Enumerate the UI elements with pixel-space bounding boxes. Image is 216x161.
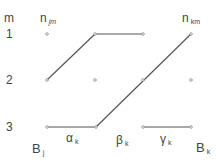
alpha-sym: α	[66, 131, 73, 145]
gamma-sub: k	[168, 139, 172, 146]
bk-b: B	[196, 140, 205, 155]
beta-sym: β	[116, 133, 123, 147]
label-alpha: αk	[66, 132, 78, 145]
label-gamma: γk	[160, 133, 172, 146]
label-bk: Bk	[196, 141, 210, 155]
gamma-sym: γ	[160, 132, 166, 146]
beta-sub: k	[125, 140, 129, 147]
label-beta: βk	[116, 134, 128, 147]
path-diagram	[0, 0, 216, 161]
bk-sub: k	[207, 148, 211, 155]
bj-b: B	[32, 141, 41, 156]
bj-sub: j	[43, 149, 45, 156]
label-bj: Bj	[32, 142, 44, 156]
alpha-sub: k	[75, 138, 79, 145]
